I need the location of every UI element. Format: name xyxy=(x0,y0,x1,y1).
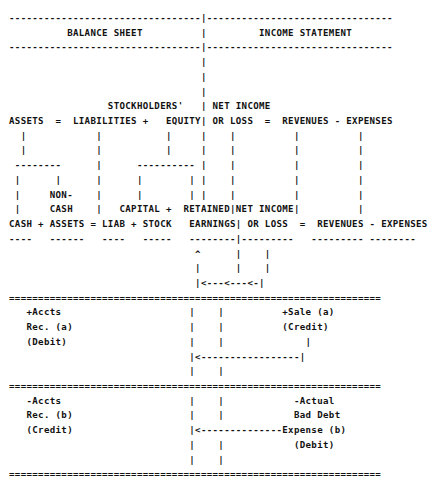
ascii-diagram-canvas: ---------------------------------|------… xyxy=(0,0,443,485)
art-body: ---------------------------------|------… xyxy=(9,13,428,479)
accounting-equation-ascii-art: ---------------------------------|------… xyxy=(9,11,428,482)
